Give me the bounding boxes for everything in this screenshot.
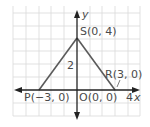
x-axis-left-arrow-icon [14,87,22,93]
point-label-p: P(−3, 0) [24,91,69,104]
coordinate-plane: y x 4 2 S(0, 4) R(3, 0) P(−3, 0) O(0, 0) [0,0,150,127]
point-label-s: S(0, 4) [80,25,117,38]
y-axis-label: y [81,8,89,21]
r-label-leader [117,80,120,87]
point-label-o: O(0, 0) [79,91,117,104]
x-tick-label: 4 [126,91,133,104]
x-axis-label: x [133,91,141,104]
y-axis-up-arrow-icon [74,10,80,18]
point-label-r: R(3, 0) [105,68,142,81]
y-tick-label: 2 [67,59,74,72]
